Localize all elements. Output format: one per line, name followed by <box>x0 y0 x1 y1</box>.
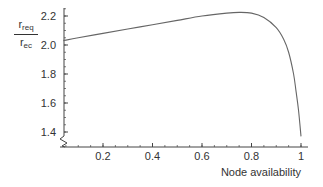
y-tick-label: 2.0 <box>41 39 56 51</box>
x-axis-label: Node availability <box>221 166 302 178</box>
y-tick-label: 1.4 <box>41 126 56 138</box>
x-tick-label: 1 <box>298 150 304 162</box>
y-label-denominator: rec <box>14 35 38 50</box>
x-tick-label: 0.2 <box>95 150 110 162</box>
ticks: 1.41.61.82.02.20.20.40.60.81 <box>41 9 304 162</box>
line-chart: 1.41.61.82.02.20.20.40.60.81 Node availa… <box>0 0 323 187</box>
series-line <box>63 12 301 136</box>
y-tick-label: 1.8 <box>41 68 56 80</box>
y-tick-label: 2.2 <box>41 10 56 22</box>
x-tick-label: 0.6 <box>194 150 209 162</box>
x-tick-label: 0.4 <box>145 150 160 162</box>
chart-canvas: 1.41.61.82.02.20.20.40.60.81 Node availa… <box>0 0 323 187</box>
x-tick-label: 0.8 <box>244 150 259 162</box>
y-tick-label: 1.6 <box>41 97 56 109</box>
y-label-numerator: rreq <box>14 19 38 35</box>
y-axis-label: rreq rec <box>14 19 38 50</box>
axes <box>60 8 308 147</box>
data-series <box>63 12 301 136</box>
